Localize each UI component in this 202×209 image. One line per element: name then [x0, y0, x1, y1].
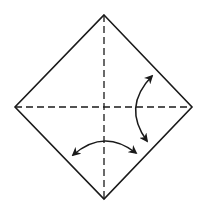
origami-diagram: Square paper shown as a diamond with two…	[0, 0, 202, 209]
diagram-canvas	[0, 0, 202, 209]
